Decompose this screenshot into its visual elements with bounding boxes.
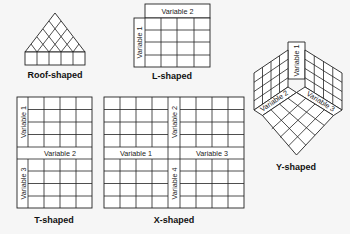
y-shaped-figure: Variable 1 Variable 2 Variable 3 Y-shape… bbox=[254, 42, 342, 172]
roof-shaped-figure: Roof-shaped bbox=[25, 13, 85, 80]
y-shaped-caption: Y-shaped bbox=[276, 162, 316, 172]
x-variable-4-label: Variable 4 bbox=[170, 168, 179, 200]
x-variable-1-label: Variable 1 bbox=[120, 149, 152, 158]
t-variable-3-label: Variable 3 bbox=[19, 168, 28, 200]
l-shaped-figure: Variable 2 Variable 1 L-shaped bbox=[134, 4, 210, 81]
t-shaped-figure: Variable 1 Variable 2 Variable 3 T-shape… bbox=[17, 97, 92, 225]
diagram-svg: Roof-shaped Variable 2 Variable 1 L-shap… bbox=[0, 0, 350, 234]
roof-shaped-caption: Roof-shaped bbox=[28, 70, 83, 80]
l-variable-2-label: Variable 2 bbox=[162, 7, 194, 16]
l-shaped-caption: L-shaped bbox=[152, 71, 192, 81]
x-variable-2-label: Variable 2 bbox=[170, 106, 179, 138]
t-shaped-caption: T-shaped bbox=[34, 215, 74, 225]
t-variable-1-label: Variable 1 bbox=[19, 106, 28, 138]
x-variable-3-label: Variable 3 bbox=[196, 149, 228, 158]
x-shaped-caption: X-shaped bbox=[154, 215, 195, 225]
l-variable-1-label: Variable 1 bbox=[135, 27, 144, 59]
matrix-shapes-diagram: Roof-shaped Variable 2 Variable 1 L-shap… bbox=[0, 0, 350, 234]
t-variable-2-label: Variable 2 bbox=[44, 149, 76, 158]
x-shaped-figure: Variable 2 Variable 1 Variable 3 Variabl… bbox=[104, 97, 244, 225]
y-variable-1-label: Variable 1 bbox=[292, 45, 301, 77]
